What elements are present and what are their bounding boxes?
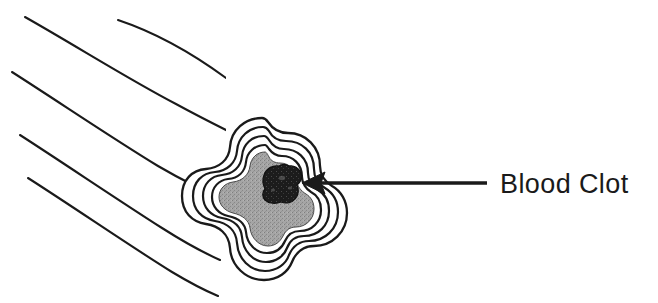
figure-root: Blood Clot [0,0,658,303]
blood-clot [263,165,302,204]
background [0,0,658,303]
blood-clot-label: Blood Clot [500,169,629,199]
blood-vessel-diagram: Blood Clot [0,0,658,303]
